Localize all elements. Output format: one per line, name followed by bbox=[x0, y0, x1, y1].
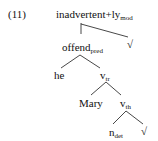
node-vtr: vtr bbox=[100, 69, 110, 81]
node-leaf-sqrt: √ bbox=[141, 125, 147, 137]
node-vtr-sub: tr bbox=[106, 75, 110, 83]
node-vth-sub: th bbox=[126, 103, 131, 111]
edge-offend-he bbox=[61, 55, 80, 68]
node-he-label: he bbox=[54, 69, 64, 81]
node-ndet: ndet bbox=[109, 126, 123, 138]
edge-root-sqrt bbox=[81, 24, 128, 37]
node-ndet-sub: det bbox=[115, 132, 124, 140]
edge-vth-ndet bbox=[113, 111, 126, 124]
example-number: (11) bbox=[8, 8, 26, 20]
node-mary-label: Mary bbox=[79, 97, 103, 109]
node-vth: vth bbox=[120, 97, 131, 109]
edge-vtr-mary bbox=[91, 82, 106, 95]
node-root-sub: mod bbox=[120, 14, 132, 22]
node-root: inadvertent+lymod bbox=[56, 8, 133, 20]
node-mary: Mary bbox=[79, 97, 103, 109]
node-he: he bbox=[54, 69, 64, 81]
node-offend-sub: pred bbox=[91, 47, 103, 55]
edge-offend-vtr bbox=[80, 55, 100, 68]
tree-edges bbox=[0, 0, 158, 141]
node-offend: offendpred bbox=[62, 41, 103, 53]
edge-vth-sqrt bbox=[126, 111, 143, 124]
node-offend-label: offend bbox=[62, 41, 91, 53]
edge-vtr-vth bbox=[106, 82, 121, 95]
sqrt-icon: √ bbox=[127, 38, 133, 50]
node-root-sqrt: √ bbox=[127, 38, 133, 50]
sqrt-icon: √ bbox=[141, 125, 147, 137]
example-number-text: (11) bbox=[8, 8, 26, 20]
node-root-label: inadvertent+ly bbox=[56, 8, 120, 20]
